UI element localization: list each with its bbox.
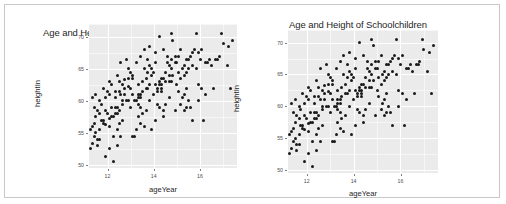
data-point [150, 74, 153, 77]
data-point [185, 58, 188, 61]
data-point [335, 133, 338, 136]
data-point [114, 106, 117, 109]
data-point [319, 140, 322, 143]
right-plot-xlabel: ageYear [288, 189, 438, 198]
data-point [189, 106, 192, 109]
data-point [125, 58, 128, 61]
data-point [350, 133, 353, 136]
data-point [309, 111, 312, 114]
left-plot-panel [89, 24, 237, 168]
data-point [374, 67, 377, 70]
data-point [303, 102, 306, 105]
left-plot: Age and Height of Schoolchildren heightI… [5, 5, 253, 199]
data-point [145, 109, 148, 112]
data-point [166, 55, 169, 58]
data-point [220, 32, 223, 35]
gridline-major-horizontal [288, 138, 438, 139]
data-point [313, 95, 316, 98]
data-point [321, 108, 324, 111]
y-tick-label: 65 [70, 66, 84, 72]
data-point [145, 87, 148, 90]
data-point [131, 135, 134, 138]
data-point [360, 89, 363, 92]
data-point [212, 87, 215, 90]
data-point [154, 61, 157, 64]
data-point [403, 124, 406, 127]
data-point [385, 76, 388, 79]
data-point [299, 108, 302, 111]
right-plot-title: Age and Height of Schoolchildren [275, 19, 441, 30]
data-point [135, 128, 138, 131]
data-point [397, 89, 400, 92]
gridline-major-horizontal [288, 43, 438, 44]
data-point [323, 84, 326, 87]
data-point [313, 102, 316, 105]
data-point [179, 77, 182, 80]
data-point [231, 39, 234, 42]
data-point [150, 128, 153, 131]
data-point [152, 71, 155, 74]
data-point [294, 98, 297, 101]
y-tick-label: 55 [269, 135, 283, 141]
data-point [170, 58, 173, 61]
data-point [413, 92, 416, 95]
y-tick-mark [285, 170, 287, 171]
data-point [383, 70, 386, 73]
data-point [417, 63, 420, 66]
data-point [160, 90, 163, 93]
gridline-major-horizontal [288, 106, 438, 107]
data-point [342, 130, 345, 133]
data-point [137, 103, 140, 106]
data-point [376, 89, 379, 92]
data-point [405, 67, 408, 70]
data-point [366, 60, 369, 63]
data-point [290, 102, 293, 105]
data-point [189, 55, 192, 58]
y-tick-label: 60 [70, 98, 84, 104]
data-point [395, 73, 398, 76]
gridline-major-horizontal [89, 69, 237, 70]
data-point [191, 64, 194, 67]
data-point [315, 79, 318, 82]
data-point [108, 93, 111, 96]
data-point [129, 106, 132, 109]
data-point [397, 105, 400, 108]
data-point [185, 87, 188, 90]
data-point [298, 133, 301, 136]
data-point [370, 38, 373, 41]
data-point [336, 89, 339, 92]
data-point [121, 103, 124, 106]
data-point [331, 83, 334, 86]
data-point [93, 106, 96, 109]
data-point [321, 124, 324, 127]
data-point [317, 127, 320, 130]
data-point [174, 55, 177, 58]
data-point [370, 63, 373, 66]
data-point [227, 45, 230, 48]
data-point [348, 70, 351, 73]
gridline-major-horizontal [288, 170, 438, 171]
data-point [325, 105, 328, 108]
data-point [307, 130, 310, 133]
data-point [344, 83, 347, 86]
data-point [183, 109, 186, 112]
data-point [100, 103, 103, 106]
data-point [162, 77, 165, 80]
gridline-minor-vertical [177, 24, 178, 168]
data-point [222, 42, 225, 45]
data-point [356, 95, 359, 98]
data-point [141, 112, 144, 115]
data-point [129, 71, 132, 74]
data-point [171, 74, 174, 77]
data-point [362, 54, 365, 57]
data-point [319, 98, 322, 101]
data-point [315, 117, 318, 120]
data-point [331, 98, 334, 101]
gridline-major-horizontal [89, 133, 237, 134]
data-point [329, 76, 332, 79]
data-point [428, 51, 431, 54]
data-point [387, 105, 390, 108]
data-point [383, 98, 386, 101]
data-point [409, 63, 412, 66]
data-point [93, 135, 96, 138]
